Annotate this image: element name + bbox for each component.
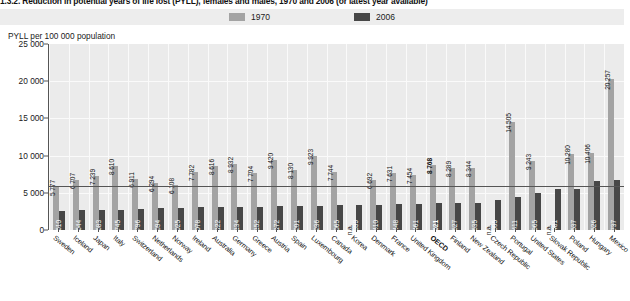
x-axis-tick-mark <box>535 228 536 232</box>
bar-value-label: 7 782 <box>188 165 195 181</box>
bar-group[interactable]: 6 2942 894 <box>148 44 168 230</box>
bar-2006[interactable]: 2 745 <box>118 210 124 230</box>
bar-value-label: 9 243 <box>525 154 532 170</box>
y-axis-ticks: 05 00010 00015 00020 00025 000 <box>0 44 44 230</box>
y-axis-tick-label: 10 000 <box>4 151 44 161</box>
bar-group[interactable]: 9 9233 236 <box>307 44 327 230</box>
bar-2006[interactable]: 5 537 <box>574 189 580 230</box>
bar-group[interactable]: 8 6163 122 <box>208 44 228 230</box>
gridline-vertical <box>208 44 209 230</box>
y-axis-tick-mark <box>44 192 48 193</box>
x-axis-tick-mark <box>197 228 198 232</box>
bar-group[interactable]: 14 5054 411 <box>505 44 525 230</box>
bar-group[interactable]: 6 9112 796 <box>128 44 148 230</box>
bar-2006[interactable]: 2 796 <box>138 209 144 230</box>
bar-group[interactable]: 8 1303 201 <box>287 44 307 230</box>
legend-swatch-2006 <box>354 13 370 21</box>
bar-group[interactable]: 8 7683 621 <box>426 44 446 230</box>
bar-group[interactable]: 8 6102 745 <box>108 44 128 230</box>
bar-group[interactable]: 7 6313 448 <box>386 44 406 230</box>
x-axis-tick-mark <box>614 228 615 232</box>
bar-2006[interactable]: 4 411 <box>515 197 521 230</box>
gridline-vertical <box>69 44 70 230</box>
bar-value-label: 14 505 <box>505 113 512 133</box>
legend-item-1970[interactable]: 1970 <box>229 12 270 22</box>
bar-group[interactable]: 8 9323 134 <box>227 44 247 230</box>
bar-2006[interactable]: 3 134 <box>237 207 243 230</box>
bar-2006[interactable]: 4 005 <box>495 200 501 230</box>
y-axis-tick-label: 15 000 <box>4 113 44 123</box>
x-axis-label-cell: Canada <box>326 232 346 298</box>
x-axis-tick-mark <box>316 228 317 232</box>
bar-2006[interactable]: 3 627 <box>455 203 461 230</box>
x-axis-tick-mark <box>515 228 516 232</box>
bar-2006[interactable]: 3 448 <box>396 204 402 230</box>
bar-2006[interactable]: 2 644 <box>79 210 85 230</box>
gridline-vertical <box>128 44 129 230</box>
legend-swatch-1970 <box>229 13 245 21</box>
bar-2006[interactable]: 3 365 <box>337 205 343 230</box>
bar-2006[interactable]: 2 683 <box>99 210 105 230</box>
bar-group[interactable]: n.a.3 399 <box>346 44 366 230</box>
bar-group[interactable]: 8 3443 635 <box>465 44 485 230</box>
bar-2006[interactable]: 3 078 <box>198 207 204 230</box>
x-axis-tick-mark <box>495 228 496 232</box>
x-axis-label: Mexico <box>608 233 630 254</box>
gridline-vertical <box>49 44 50 230</box>
bar-group[interactable]: 7 7443 365 <box>327 44 347 230</box>
x-axis-label-cell: Portugal <box>505 232 525 298</box>
bar-group[interactable]: 7 2392 683 <box>89 44 109 230</box>
bar-group[interactable]: 6 7072 644 <box>69 44 89 230</box>
bar-2006[interactable]: 3 621 <box>436 203 442 230</box>
x-axis-tick-mark <box>376 228 377 232</box>
gridline-vertical <box>247 44 248 230</box>
y-axis-tick-mark <box>44 230 48 231</box>
x-axis-tick-mark <box>296 228 297 232</box>
bar-group[interactable]: 10 2805 537 <box>565 44 585 230</box>
bar-series-container: 5 7772 6106 7072 6447 2392 6838 6102 745… <box>49 44 624 230</box>
bar-group[interactable]: 6 6923 410 <box>366 44 386 230</box>
bar-2006[interactable]: 3 122 <box>218 207 224 230</box>
x-axis-tick-mark <box>475 228 476 232</box>
x-axis-tick-mark <box>435 228 436 232</box>
bar-2006[interactable]: 3 635 <box>475 203 481 230</box>
bar-2006[interactable]: 3 461 <box>416 204 422 230</box>
bar-value-label: 9 420 <box>267 153 274 169</box>
bar-2006[interactable]: 3 236 <box>317 206 323 230</box>
y-axis-tick-mark <box>44 44 48 45</box>
bar-2006[interactable]: 3 410 <box>376 205 382 230</box>
x-axis-tick-mark <box>554 228 555 232</box>
bar-2006[interactable]: 3 172 <box>277 206 283 230</box>
bar-2006[interactable]: 2 610 <box>59 211 65 230</box>
bar-group[interactable]: n.a.4 005 <box>485 44 505 230</box>
bar-group[interactable]: 9 4203 172 <box>267 44 287 230</box>
bar-group[interactable]: 6 1082 925 <box>168 44 188 230</box>
gridline-vertical <box>148 44 149 230</box>
x-axis-label-cell: Finland <box>445 232 465 298</box>
bar-2006[interactable]: 3 201 <box>297 206 303 230</box>
bar-group[interactable]: 9 2434 965 <box>525 44 545 230</box>
bar-2006[interactable]: 3 152 <box>257 207 263 230</box>
legend-item-2006[interactable]: 2006 <box>354 12 395 22</box>
bar-2006[interactable]: 3 399 <box>356 205 362 230</box>
gridline-vertical <box>227 44 228 230</box>
bar-2006[interactable]: 2 894 <box>158 208 164 230</box>
gridline-vertical <box>565 44 566 230</box>
y-axis-tick-label: 5 000 <box>4 188 44 198</box>
x-axis-label-cell: Luxembourg <box>306 232 326 298</box>
bar-group[interactable]: 20 2576 737 <box>604 44 624 230</box>
bar-group[interactable]: 5 7772 610 <box>49 44 69 230</box>
bar-2006[interactable]: 6 737 <box>614 180 620 230</box>
bar-group[interactable]: 8 2893 627 <box>446 44 466 230</box>
x-axis-label-cell: Italy <box>108 232 128 298</box>
bar-group[interactable]: n.a.5 481 <box>545 44 565 230</box>
bar-group[interactable]: 10 4066 526 <box>584 44 604 230</box>
bar-group[interactable]: 7 7043 152 <box>247 44 267 230</box>
x-axis-label-cell: Ireland <box>187 232 207 298</box>
bar-group[interactable]: 7 7823 078 <box>188 44 208 230</box>
bar-2006[interactable]: 6 526 <box>594 181 600 230</box>
bar-group[interactable]: 7 4543 461 <box>406 44 426 230</box>
bar-2006[interactable]: 5 481 <box>555 189 561 230</box>
bar-2006[interactable]: 2 925 <box>178 208 184 230</box>
bar-2006[interactable]: 4 965 <box>535 193 541 230</box>
